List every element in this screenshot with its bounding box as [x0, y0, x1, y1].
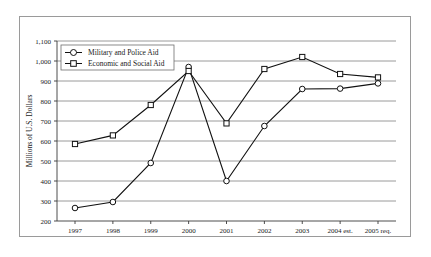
chart-legend: Military and Police AidEconomic and Soci…: [61, 45, 174, 70]
x-tick-label: 2001: [220, 227, 235, 235]
x-tick-label: 1997: [68, 227, 83, 235]
data-point-marker: [110, 199, 116, 205]
legend-label: Economic and Social Aid: [88, 59, 165, 68]
data-point-marker: [300, 54, 305, 59]
chart-figure: 1,1001,000900800700600500400300200 19971…: [0, 0, 431, 257]
legend-square-marker: [71, 61, 77, 67]
data-point-marker: [299, 86, 305, 92]
data-point-marker: [72, 205, 78, 211]
x-tick-label: 2005 req.: [365, 227, 392, 235]
data-point-marker: [262, 66, 267, 71]
y-tick-label: 1,100: [35, 38, 51, 46]
x-tick-label: 1998: [106, 227, 121, 235]
y-tick-label: 500: [41, 158, 52, 166]
y-tick-label: 400: [41, 178, 52, 186]
data-point-marker: [262, 123, 268, 129]
data-point-marker: [338, 71, 343, 76]
x-tick-label: 2002: [257, 227, 272, 235]
data-point-marker: [148, 102, 153, 107]
y-axis-ticks: 1,1001,000900800700600500400300200: [35, 38, 57, 226]
legend-circle-marker: [71, 50, 77, 56]
y-tick-label: 600: [41, 138, 52, 146]
data-point-marker: [110, 133, 115, 138]
data-point-marker: [375, 75, 380, 80]
x-tick-label: 2004 est.: [327, 227, 353, 235]
y-tick-label: 800: [41, 98, 52, 106]
x-tick-label: 2000: [182, 227, 197, 235]
x-tick-label: 2003: [295, 227, 310, 235]
data-point-marker: [72, 141, 77, 146]
data-point-marker: [148, 160, 154, 166]
x-axis-ticks: 19971998199920002001200220032004 est.200…: [68, 221, 391, 235]
data-point-marker: [224, 178, 230, 184]
legend-label: Military and Police Aid: [88, 48, 159, 57]
x-tick-label: 1999: [144, 227, 159, 235]
data-point-marker: [224, 121, 229, 126]
y-tick-label: 900: [41, 78, 52, 86]
line-chart: 1,1001,000900800700600500400300200 19971…: [0, 0, 431, 257]
data-point-marker: [186, 68, 191, 73]
data-point-marker: [337, 86, 343, 92]
y-tick-label: 1,000: [35, 58, 51, 66]
y-tick-label: 700: [41, 118, 52, 126]
y-axis-title: Millions of U.S. Dollars: [25, 95, 34, 168]
y-tick-label: 200: [41, 218, 52, 226]
y-tick-label: 300: [41, 198, 52, 206]
data-point-marker: [375, 81, 381, 87]
